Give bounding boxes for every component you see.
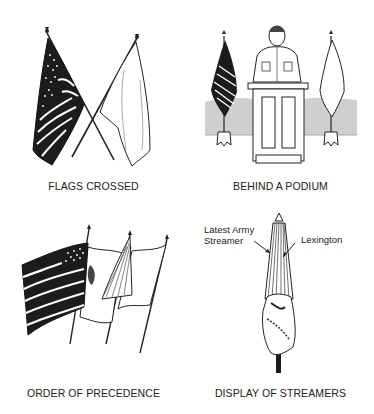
- panel-display-of-streamers: Latest Army Streamer Lexington DISPLAY O…: [187, 207, 374, 414]
- crossed-flags-illustration: [0, 0, 187, 207]
- callout-latest-army-streamer: Latest Army Streamer: [204, 225, 254, 246]
- callout-lexington: Lexington: [301, 235, 342, 246]
- panel-flags-crossed: FLAGS CROSSED: [0, 0, 187, 207]
- panel-behind-a-podium: BEHIND A PODIUM: [187, 0, 374, 207]
- caption-order-of-precedence: ORDER OF PRECEDENCE: [0, 387, 187, 399]
- podium-illustration: [187, 0, 374, 207]
- panel-order-of-precedence: ORDER OF PRECEDENCE: [0, 207, 187, 414]
- order-of-precedence-illustration: [0, 207, 187, 414]
- caption-display-of-streamers: DISPLAY OF STREAMERS: [187, 387, 374, 399]
- caption-flags-crossed: FLAGS CROSSED: [0, 180, 187, 192]
- caption-behind-a-podium: BEHIND A PODIUM: [187, 180, 374, 192]
